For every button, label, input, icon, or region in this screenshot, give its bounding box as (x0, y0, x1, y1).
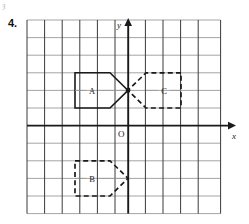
x-axis-arrowhead (228, 122, 236, 130)
coordinate-grid-figure: A C B O x y (0, 0, 249, 224)
x-axis-label: x (231, 131, 236, 141)
shape-a-label: A (89, 86, 96, 96)
rotation-center-point (126, 88, 131, 93)
y-axis-label: y (116, 20, 121, 30)
figure-root: ȝ 4. (0, 0, 249, 224)
grid-background (27, 20, 221, 214)
origin-label: O (118, 129, 125, 139)
shape-b-label: B (89, 174, 95, 184)
shape-c-label: C (161, 86, 167, 96)
